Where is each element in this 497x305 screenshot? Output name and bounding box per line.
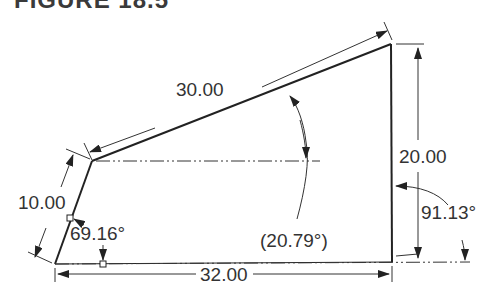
dimensioned-drawing: 30.00 10.00 20.00 32.00 (20.79°) 69.16° [0, 0, 497, 305]
dimension-20-label: 20.00 [399, 146, 447, 167]
extension-line [28, 252, 52, 263]
dimension-30-label: 30.00 [176, 79, 224, 100]
slant-top-edge-line [92, 44, 391, 161]
angle-69-16-label: 69.16° [70, 223, 125, 244]
angle-91-13-label: 91.13° [421, 202, 476, 223]
angle-arc-arrow-down [462, 240, 465, 260]
dimension-20: 20.00 [396, 44, 447, 258]
dimension-arrow-right [262, 31, 387, 87]
dimension-arrow-down [35, 228, 46, 257]
angle-69-16: 69.16° [67, 215, 125, 267]
angle-extension-line [396, 254, 418, 256]
dimension-arrow-up [61, 155, 73, 187]
extension-line [384, 22, 392, 40]
dimension-10: 10.00 [18, 149, 90, 263]
dimension-32-label: 32.00 [200, 264, 248, 285]
extension-line [66, 149, 90, 159]
angle-91-13: 91.13° [396, 186, 476, 260]
angle-20-79: (20.79°) [260, 96, 328, 251]
angle-marker-square [100, 261, 106, 267]
angle-20-79-label: (20.79°) [260, 230, 328, 251]
dimension-10-label: 10.00 [18, 192, 66, 213]
right-edge-line [391, 44, 392, 262]
dimension-30: 30.00 [84, 22, 392, 160]
angle-marker-square [67, 215, 73, 221]
